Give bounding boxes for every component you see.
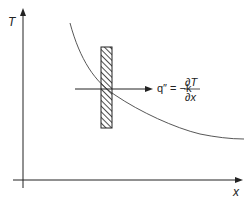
diagram-canvas: T x q″ = −k ∂T ∂x <box>0 0 252 200</box>
x-axis <box>13 177 243 183</box>
flux-arrowhead-icon <box>145 86 153 92</box>
y-axis-label: T <box>8 15 17 29</box>
derivative-numerator: ∂T <box>185 76 198 88</box>
derivative-denominator: ∂x <box>185 91 196 103</box>
hatched-wall-element <box>101 47 112 128</box>
y-axis <box>20 8 26 188</box>
x-axis-arrow-icon <box>235 177 243 183</box>
heat-conduction-diagram: T x q″ = −k ∂T ∂x <box>0 0 252 200</box>
temperature-profile-curve <box>70 23 244 139</box>
y-axis-arrow-icon <box>20 8 26 16</box>
heat-flux-arrow <box>75 86 153 92</box>
x-axis-label: x <box>232 185 240 199</box>
